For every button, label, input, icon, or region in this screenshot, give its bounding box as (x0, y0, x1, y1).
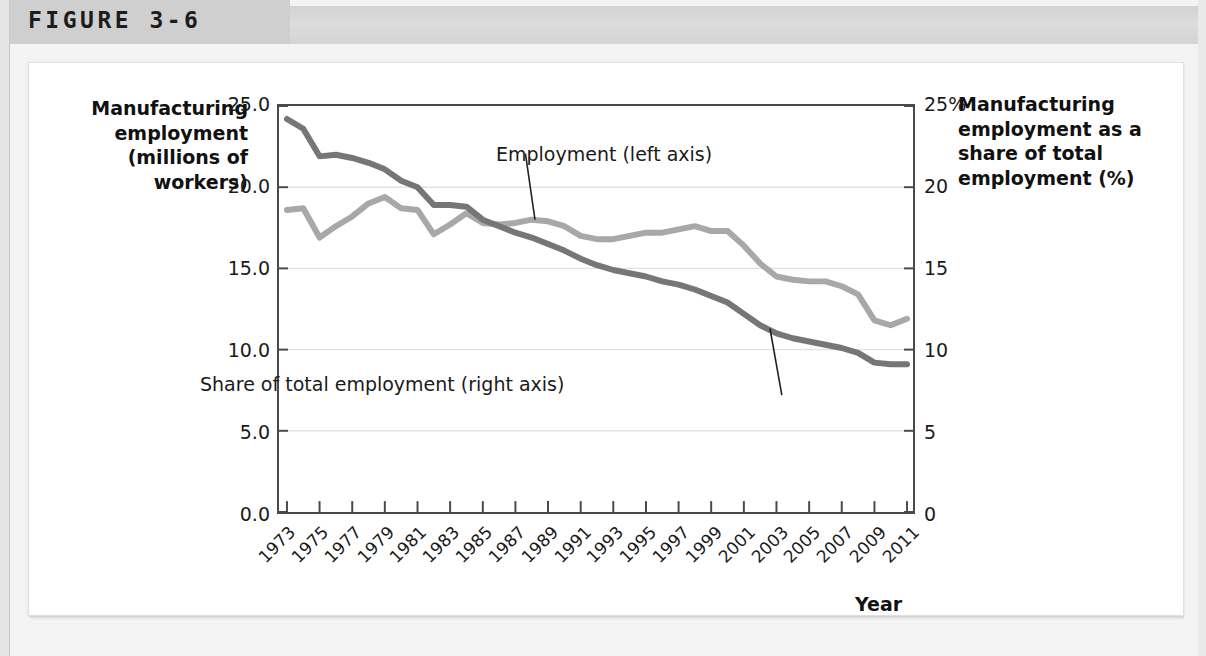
right-axis-tick-label: 10 (924, 339, 986, 361)
right-axis-tick-label: 5 (924, 421, 986, 443)
chart-plot-svg (279, 106, 913, 512)
right-axis-ticks: 0510152025% (924, 0, 994, 656)
right-axis-tick-label: 15 (924, 257, 986, 279)
left-axis-tick-label: 0.0 (208, 503, 270, 525)
series-line-employment (287, 197, 907, 325)
plot-area (277, 104, 915, 514)
page-left-rail (0, 0, 10, 656)
left-axis-ticks: 0.05.010.015.020.025.0 (200, 0, 270, 656)
right-axis-tick-label: 0 (924, 503, 986, 525)
left-axis-tick-label: 15.0 (208, 257, 270, 279)
left-axis-tick-label: 20.0 (208, 175, 270, 197)
figure-container: FIGURE 3-6 Manufacturing employment (mil… (0, 0, 1206, 656)
left-axis-tick-label: 10.0 (208, 339, 270, 361)
left-axis-tick-label: 25.0 (208, 93, 270, 115)
annotation-share: Share of total employment (right axis) (200, 373, 564, 395)
left-axis-tick-label: 5.0 (208, 421, 270, 443)
right-axis-tick-label: 20 (924, 175, 986, 197)
leader-line-share (770, 329, 782, 396)
figure-number-label: FIGURE 3-6 (28, 7, 201, 33)
page-right-rail (1198, 0, 1206, 656)
annotation-employment: Employment (left axis) (496, 143, 712, 165)
right-axis-tick-label: 25% (924, 93, 986, 115)
